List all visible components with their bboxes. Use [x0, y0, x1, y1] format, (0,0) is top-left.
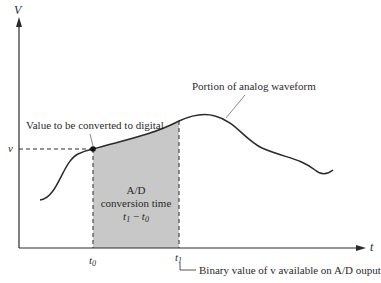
binary-value-leader-line — [180, 263, 196, 270]
y-axis-label: V — [14, 4, 21, 16]
value-leader-line — [90, 134, 93, 146]
ad-line: A/D — [93, 184, 179, 197]
t1-tick-label: t1 — [175, 251, 182, 263]
t0-subscript: 0 — [92, 259, 96, 268]
value-to-convert-annotation: Value to be converted to digital — [26, 119, 164, 131]
conversion-time-line: conversion time — [93, 197, 179, 210]
conversion-time-label: A/D conversion time t1 − t0 — [93, 184, 179, 223]
binary-value-annotation: Binary value of v available on A/D ouput — [199, 264, 381, 276]
sample-point — [90, 146, 96, 152]
v-level-label: v — [8, 142, 13, 154]
t0-tick-label: t0 — [89, 254, 96, 266]
x-axis-label: t — [370, 241, 373, 253]
conversion-time-expression: t1 − t0 — [93, 210, 179, 223]
x-axis-arrow-icon — [356, 245, 366, 251]
y-axis-arrow-icon — [16, 17, 22, 27]
waveform-leader-line — [226, 95, 245, 118]
diagram-canvas — [0, 0, 381, 283]
expr-t1-sub: 1 — [126, 215, 130, 224]
expr-minus: − — [133, 210, 139, 222]
t1-subscript: 1 — [178, 256, 182, 265]
waveform-annotation: Portion of analog waveform — [192, 80, 316, 92]
expr-t0-sub: 0 — [145, 215, 149, 224]
